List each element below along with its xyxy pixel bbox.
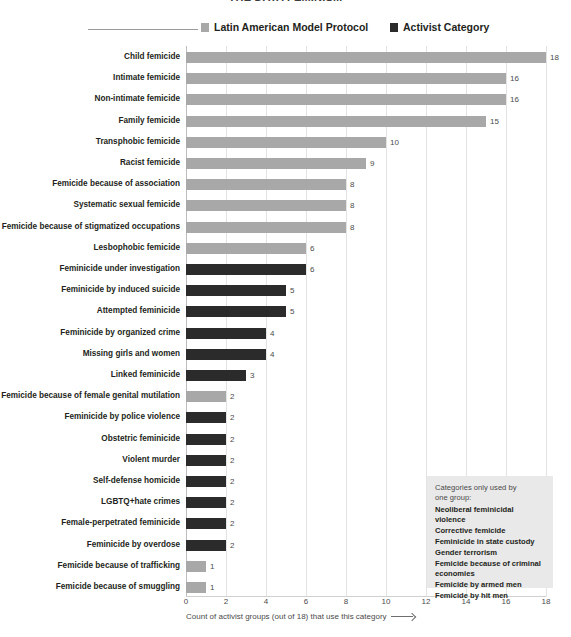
category-label: Missing girls and women: [83, 347, 180, 361]
bar-value-label: 2: [230, 454, 234, 467]
bar: [186, 243, 306, 254]
bar: [186, 285, 286, 296]
annotation-item: Neoliberal feminicidal violence: [435, 505, 545, 524]
bar: [186, 200, 346, 211]
x-axis-tick-label: 8: [344, 597, 348, 606]
bar-row: Non-intimate femicide16: [186, 89, 546, 111]
bar-row: Femicide because of stigmatized occupati…: [186, 217, 546, 239]
annotation-item: Femicide by armed men: [435, 580, 545, 590]
category-label: Linked feminicide: [111, 368, 180, 382]
bar: [186, 222, 346, 233]
bar-value-label: 2: [230, 390, 234, 403]
x-axis-title: Count of activist groups (out of 18) tha…: [186, 612, 417, 621]
category-label: Femicide because of stigmatized occupati…: [2, 220, 180, 234]
bar: [186, 328, 266, 339]
annotation-item: Feminicide in state custody: [435, 537, 545, 547]
bar: [186, 412, 226, 423]
annotation-item: Corrective femicide: [435, 526, 545, 536]
bar: [186, 455, 226, 466]
bar-value-label: 18: [550, 51, 559, 64]
category-label: Feminicide under investigation: [59, 262, 180, 276]
bar-row: Feminicide by induced suicide5: [186, 280, 546, 302]
page-title: THE DATA FEMINISM: [0, 0, 571, 3]
annotation-item: Gender terrorism: [435, 548, 545, 558]
bar-value-label: 2: [230, 496, 234, 509]
bar: [186, 476, 226, 487]
bar: [186, 264, 306, 275]
x-axis-tick-label: 2: [224, 597, 228, 606]
category-label: Attempted feminicide: [97, 304, 180, 318]
category-label: Feminicide by induced suicide: [61, 283, 180, 297]
x-axis-tick-label: 6: [304, 597, 308, 606]
bar-row: Systematic sexual femicide8: [186, 195, 546, 217]
bar: [186, 52, 546, 63]
bar: [186, 179, 346, 190]
arrow-right-icon: [391, 613, 417, 620]
bar: [186, 116, 486, 127]
legend-swatch-activist: [390, 23, 398, 32]
annotation-item: Femicide by hit men: [435, 591, 545, 601]
bar-value-label: 8: [350, 221, 354, 234]
bar-value-label: 1: [210, 560, 214, 573]
category-label: Feminicide by organized crime: [60, 326, 180, 340]
bar-row: Lesbophobic femicide6: [186, 238, 546, 260]
category-label: Family femicide: [119, 114, 180, 128]
bar-row: Family femicide15: [186, 111, 546, 133]
category-label: Femicide because of smuggling: [56, 580, 180, 594]
bar-value-label: 2: [230, 475, 234, 488]
category-label: Lesbophobic femicide: [94, 241, 180, 255]
category-label: LGBTQ+hate crimes: [101, 495, 180, 509]
bar-row: Feminicide under investigation6: [186, 259, 546, 281]
category-label: Female-perpetrated feminicide: [61, 516, 180, 530]
category-label: Femicide because of female genital mutil…: [1, 389, 180, 403]
category-label: Systematic sexual femicide: [74, 198, 181, 212]
category-label: Racist femicide: [120, 156, 180, 170]
category-label: Self-defense homicide: [93, 474, 180, 488]
bar-value-label: 16: [510, 93, 519, 106]
bar: [186, 349, 266, 360]
bar: [186, 518, 226, 529]
bar-value-label: 8: [350, 178, 354, 191]
bar-row: Racist femicide9: [186, 153, 546, 175]
bar-row: Violent murder2: [186, 450, 546, 472]
bar-row: Femicide because of association8: [186, 174, 546, 196]
annotation-item-list: Neoliberal feminicidal violenceCorrectiv…: [435, 505, 545, 600]
annotation-item: Femicide because of criminal economies: [435, 559, 545, 578]
bar-row: Attempted feminicide5: [186, 301, 546, 323]
bar: [186, 370, 246, 381]
annotation-heading: Categories only used by one group:: [435, 483, 545, 502]
bar-value-label: 3: [250, 369, 254, 382]
bar: [186, 540, 226, 551]
bar: [186, 158, 366, 169]
bar-value-label: 2: [230, 411, 234, 424]
bar-value-label: 4: [270, 327, 274, 340]
x-axis-title-text: Count of activist groups (out of 18) tha…: [186, 612, 387, 621]
category-label: Violent murder: [122, 453, 180, 467]
legend-label-activist: Activist Category: [403, 21, 489, 33]
bar-row: Child femicide18: [186, 47, 546, 69]
bar-value-label: 2: [230, 539, 234, 552]
legend-label-protocol: Latin American Model Protocol: [214, 21, 368, 33]
legend-item-activist-category: Activist Category: [390, 21, 489, 33]
bar-row: Transphobic femicide10: [186, 132, 546, 154]
category-label: Transphobic femicide: [96, 135, 180, 149]
legend-item-latin-american-model-protocol: Latin American Model Protocol: [201, 21, 368, 33]
legend-rule: [88, 29, 198, 30]
bar-value-label: 5: [290, 305, 294, 318]
bar-row: Missing girls and women4: [186, 344, 546, 366]
category-label: Femicide because of trafficking: [58, 559, 180, 573]
bar-value-label: 4: [270, 348, 274, 361]
bar-row: Feminicide by organized crime4: [186, 323, 546, 345]
x-axis-tick-label: 4: [264, 597, 268, 606]
bar: [186, 582, 206, 593]
x-axis-tick-label: 12: [422, 597, 431, 606]
bar-value-label: 2: [230, 433, 234, 446]
page-title-clipped: THE DATA FEMINISM: [0, 0, 571, 7]
category-label: Femicide because of association: [52, 177, 180, 191]
bar: [186, 73, 506, 84]
bar-row: Feminicide by police violence2: [186, 407, 546, 429]
bar: [186, 497, 226, 508]
category-label: Feminicide by overdose: [87, 538, 180, 552]
bar: [186, 94, 506, 105]
bar-value-label: 16: [510, 72, 519, 85]
